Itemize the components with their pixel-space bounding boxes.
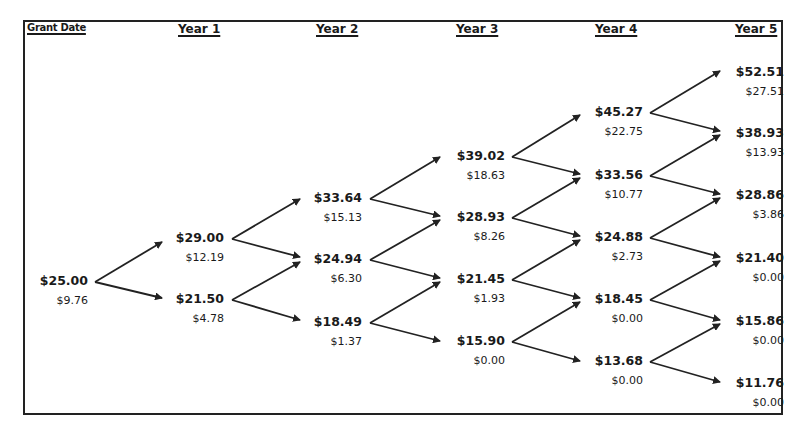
option-value: $1.37 xyxy=(314,335,362,349)
node-grant-0: $25.00 $9.76 xyxy=(40,274,88,308)
option-value: $12.19 xyxy=(176,251,224,265)
option-value: $2.73 xyxy=(595,250,643,264)
stock-price: $45.27 xyxy=(595,105,643,119)
node-year5-3: $21.40 $0.00 xyxy=(736,251,784,285)
option-value: $1.93 xyxy=(457,292,505,306)
stock-price: $28.86 xyxy=(736,188,784,202)
node-year1-0: $29.00 $12.19 xyxy=(176,231,224,265)
option-value: $3.86 xyxy=(736,208,784,222)
node-year4-4: $13.68 $0.00 xyxy=(595,354,643,388)
stock-price: $21.40 xyxy=(736,251,784,265)
node-year1-1: $21.50 $4.78 xyxy=(176,292,224,326)
option-value: $0.00 xyxy=(457,354,505,368)
stock-price: $33.64 xyxy=(314,191,362,205)
node-year2-2: $18.49 $1.37 xyxy=(314,315,362,349)
stock-price: $15.86 xyxy=(736,314,784,328)
node-year4-1: $33.56 $10.77 xyxy=(595,168,643,202)
node-year5-0: $52.51 $27.51 xyxy=(736,65,784,99)
stock-price: $25.00 xyxy=(40,274,88,288)
option-value: $0.00 xyxy=(595,374,643,388)
option-value: $0.00 xyxy=(736,396,784,410)
option-value: $9.76 xyxy=(40,294,88,308)
stock-price: $24.88 xyxy=(595,230,643,244)
option-value: $10.77 xyxy=(595,188,643,202)
node-year3-3: $15.90 $0.00 xyxy=(457,334,505,368)
node-year3-2: $21.45 $1.93 xyxy=(457,272,505,306)
option-value: $15.13 xyxy=(314,211,362,225)
node-year2-1: $24.94 $6.30 xyxy=(314,252,362,286)
node-year2-0: $33.64 $15.13 xyxy=(314,191,362,225)
option-value: $13.93 xyxy=(736,146,784,160)
node-year4-3: $18.45 $0.00 xyxy=(595,292,643,326)
node-year5-5: $11.76 $0.00 xyxy=(736,376,784,410)
option-value: $0.00 xyxy=(736,334,784,348)
stock-price: $24.94 xyxy=(314,252,362,266)
stock-price: $15.90 xyxy=(457,334,505,348)
stock-price: $52.51 xyxy=(736,65,784,79)
option-value: $6.30 xyxy=(314,272,362,286)
option-value: $0.00 xyxy=(595,312,643,326)
option-value: $8.26 xyxy=(457,230,505,244)
option-value: $4.78 xyxy=(176,312,224,326)
stock-price: $29.00 xyxy=(176,231,224,245)
tree-arrows xyxy=(0,0,811,439)
stock-price: $18.49 xyxy=(314,315,362,329)
node-year5-2: $28.86 $3.86 xyxy=(736,188,784,222)
node-year4-0: $45.27 $22.75 xyxy=(595,105,643,139)
option-value: $18.63 xyxy=(457,169,505,183)
stock-price: $28.93 xyxy=(457,210,505,224)
stock-price: $13.68 xyxy=(595,354,643,368)
node-year5-1: $38.93 $13.93 xyxy=(736,126,784,160)
option-value: $0.00 xyxy=(736,271,784,285)
stock-price: $18.45 xyxy=(595,292,643,306)
option-value: $27.51 xyxy=(736,85,784,99)
option-value: $22.75 xyxy=(595,125,643,139)
stock-price: $11.76 xyxy=(736,376,784,390)
stock-price: $21.45 xyxy=(457,272,505,286)
stock-price: $38.93 xyxy=(736,126,784,140)
stock-price: $39.02 xyxy=(457,149,505,163)
stock-price: $21.50 xyxy=(176,292,224,306)
node-year3-1: $28.93 $8.26 xyxy=(457,210,505,244)
node-year3-0: $39.02 $18.63 xyxy=(457,149,505,183)
stock-price: $33.56 xyxy=(595,168,643,182)
node-year5-4: $15.86 $0.00 xyxy=(736,314,784,348)
node-year4-2: $24.88 $2.73 xyxy=(595,230,643,264)
